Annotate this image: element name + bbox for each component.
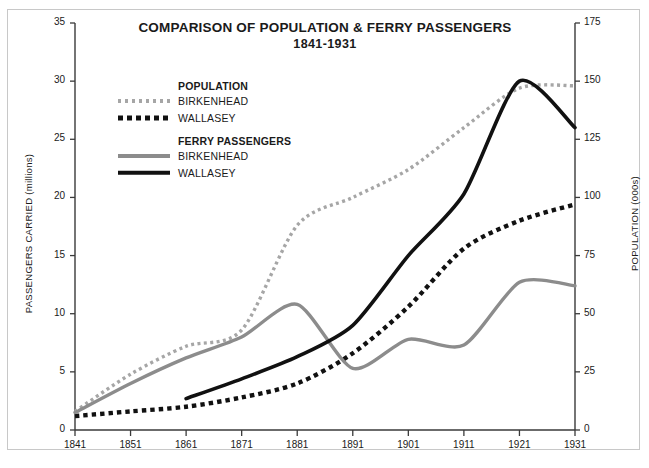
y-tick-right-100: 100 — [584, 190, 614, 201]
legend-label: BIRKENHEAD — [178, 95, 248, 107]
y-tick-right-125: 125 — [584, 132, 614, 143]
legend-heading-ferry-passengers: FERRY PASSENGERS — [178, 135, 328, 147]
y-tick-left-5: 5 — [39, 365, 65, 376]
y-tick-left-0: 0 — [39, 423, 65, 434]
x-tick-1861: 1861 — [166, 439, 206, 450]
series-line-population-wallasey — [75, 204, 575, 416]
legend-heading-population: POPULATION — [178, 80, 328, 92]
y-tick-left-35: 35 — [39, 16, 65, 27]
legend-item-population-wallasey[interactable]: WALLASEY — [118, 109, 328, 126]
legend-label: BIRKENHEAD — [178, 150, 248, 162]
y-tick-left-10: 10 — [39, 307, 65, 318]
plot-area — [0, 0, 649, 468]
x-tick-1881: 1881 — [277, 439, 317, 450]
x-tick-1911: 1911 — [444, 439, 484, 450]
y-tick-right-50: 50 — [584, 307, 614, 318]
y-tick-left-15: 15 — [39, 249, 65, 260]
x-tick-1921: 1921 — [499, 439, 539, 450]
y-tick-right-0: 0 — [584, 423, 614, 434]
x-tick-1901: 1901 — [388, 439, 428, 450]
y-tick-right-75: 75 — [584, 249, 614, 260]
legend-swatch-solid-gray-icon — [118, 150, 170, 162]
legend-group-spacer — [118, 126, 328, 135]
legend-item-population-birkenhead[interactable]: BIRKENHEAD — [118, 92, 328, 109]
x-tick-1871: 1871 — [222, 439, 262, 450]
y-tick-left-20: 20 — [39, 190, 65, 201]
legend-swatch-solid-black-icon — [118, 167, 170, 179]
y-tick-right-150: 150 — [584, 74, 614, 85]
legend-item-ferry-passengers-wallasey[interactable]: WALLASEY — [118, 164, 328, 181]
legend-swatch-dot-black-icon — [118, 112, 170, 124]
y-tick-left-30: 30 — [39, 74, 65, 85]
x-tick-1891: 1891 — [333, 439, 373, 450]
x-tick-1931: 1931 — [555, 439, 595, 450]
legend-label: WALLASEY — [178, 112, 236, 124]
series-line-ferry-passengers-birkenhead — [75, 280, 575, 413]
chart-figure: COMPARISON OF POPULATION & FERRY PASSENG… — [0, 0, 649, 468]
x-tick-1851: 1851 — [111, 439, 151, 450]
legend-label: WALLASEY — [178, 167, 236, 179]
x-tick-1841: 1841 — [55, 439, 95, 450]
legend-item-ferry-passengers-birkenhead[interactable]: BIRKENHEAD — [118, 147, 328, 164]
y-tick-right-175: 175 — [584, 16, 614, 27]
chart-legend: POPULATIONBIRKENHEADWALLASEYFERRY PASSEN… — [118, 80, 328, 181]
y-tick-left-25: 25 — [39, 132, 65, 143]
y-tick-right-25: 25 — [584, 365, 614, 376]
legend-swatch-dot-gray-icon — [118, 95, 170, 107]
